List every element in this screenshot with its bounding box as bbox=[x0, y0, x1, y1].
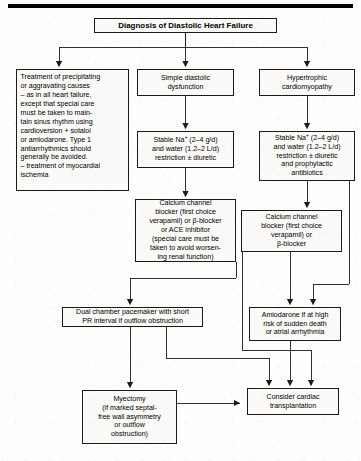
edge-ccb-to-pacemaker bbox=[130, 262, 236, 300]
node-calcium-channel-blocker-beta-label: Calcium channel blocker (first choice ve… bbox=[242, 213, 341, 249]
node-treatment-precipitating-causes[interactable]: Treatment of precipitating or aggravatin… bbox=[16, 69, 129, 191]
node-myectomy-label: Myectomy (if marked septal- free wall as… bbox=[83, 395, 176, 440]
node-amiodarone-high-risk[interactable]: Amiodarone if at high risk of sudden dea… bbox=[249, 307, 341, 341]
node-consider-cardiac-transplantation-label: Consider cardiac transplantation bbox=[248, 393, 338, 411]
node-hypertrophic-cardiomyopathy-label: Hypertrophic cardiomyopathy bbox=[260, 74, 354, 92]
node-consider-cardiac-transplantation[interactable]: Consider cardiac transplantation bbox=[247, 388, 339, 415]
node-stable-sodium-water-right[interactable]: Stable Na+ (2–4 g/d)and water (1.2–2 L/d… bbox=[259, 131, 355, 181]
page-top-rule bbox=[8, 4, 353, 8]
node-stable-sodium-water-mid-label: Stable Na+ (2–4 g/d)and water (1.2–2 L/d… bbox=[138, 136, 233, 163]
node-calcium-channel-blocker-beta[interactable]: Calcium channel blocker (first choice ve… bbox=[241, 210, 342, 252]
node-dual-chamber-pacemaker-label: Dual chamber pacemaker with short PR int… bbox=[63, 308, 202, 326]
flowchart-page: Diagnosis of Diastolic Heart Failure Tre… bbox=[0, 0, 361, 461]
node-treatment-precipitating-causes-label: Treatment of precipitating or aggravatin… bbox=[17, 70, 128, 180]
node-diagnosis-title-label: Diagnosis of Diastolic Heart Failure bbox=[95, 21, 276, 31]
node-simple-diastolic-dysfunction-label: Simple diastolic dysfunction bbox=[138, 74, 233, 92]
node-calcium-channel-blocker-ace[interactable]: Calcium channel blocker (first choice ve… bbox=[135, 199, 236, 262]
node-calcium-channel-blocker-ace-label: Calcium channel blocker (first choice ve… bbox=[136, 199, 235, 262]
node-simple-diastolic-dysfunction[interactable]: Simple diastolic dysfunction bbox=[137, 69, 234, 96]
edge-diagnosis-to-treatment bbox=[59, 33, 186, 62]
node-stable-sodium-water-mid[interactable]: Stable Na+ (2–4 g/d)and water (1.2–2 L/d… bbox=[137, 131, 234, 168]
node-myectomy[interactable]: Myectomy (if marked septal- free wall as… bbox=[82, 390, 177, 444]
edge-diagnosis-to-hypertrophic bbox=[186, 47, 308, 62]
node-dual-chamber-pacemaker[interactable]: Dual chamber pacemaker with short PR int… bbox=[62, 307, 203, 327]
node-amiodarone-high-risk-label: Amiodarone if at high risk of sudden dea… bbox=[250, 311, 340, 338]
node-hypertrophic-cardiomyopathy[interactable]: Hypertrophic cardiomyopathy bbox=[259, 69, 355, 96]
node-stable-sodium-water-right-label: Stable Na+ (2–4 g/d)and water (1.2–2 L/d… bbox=[260, 134, 354, 179]
node-diagnosis-title[interactable]: Diagnosis of Diastolic Heart Failure bbox=[94, 18, 277, 33]
